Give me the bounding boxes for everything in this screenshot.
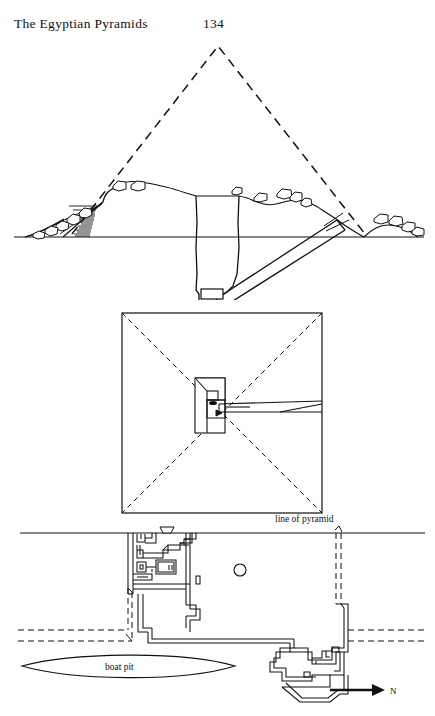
page-number: 134 bbox=[203, 16, 224, 32]
figure-pyramid-site-plan: line of pyramid bbox=[0, 512, 435, 716]
central-chamber-block bbox=[195, 378, 225, 433]
mortuary-temple-plan bbox=[128, 533, 294, 643]
descending-corridor bbox=[216, 220, 345, 300]
mortuary-temple-entrance bbox=[160, 527, 174, 533]
subterranean-chamber bbox=[199, 289, 226, 300]
figure-pyramid-ground-plan bbox=[0, 300, 435, 520]
valley-temple-plan bbox=[270, 604, 348, 702]
corridor-entrance-marks bbox=[324, 213, 349, 231]
well-shaft-circle bbox=[234, 564, 246, 576]
central-shaft bbox=[196, 196, 239, 300]
entrance-corridor bbox=[219, 401, 322, 412]
boat-pit: boat pit bbox=[22, 655, 235, 678]
original-pyramid-outline bbox=[72, 46, 365, 234]
stone-blocks-debris bbox=[33, 181, 424, 239]
label-boat-pit: boat pit bbox=[105, 662, 134, 672]
running-head: The Egyptian Pyramids 134 bbox=[0, 16, 435, 36]
book-page: The Egyptian Pyramids 134 bbox=[0, 0, 435, 716]
figure-pyramid-cross-section bbox=[0, 34, 435, 300]
page-title: The Egyptian Pyramids bbox=[14, 16, 148, 32]
causeway-walls bbox=[18, 533, 425, 641]
label-north: N bbox=[390, 686, 397, 696]
label-line-of-pyramid: line of pyramid bbox=[275, 514, 334, 524]
